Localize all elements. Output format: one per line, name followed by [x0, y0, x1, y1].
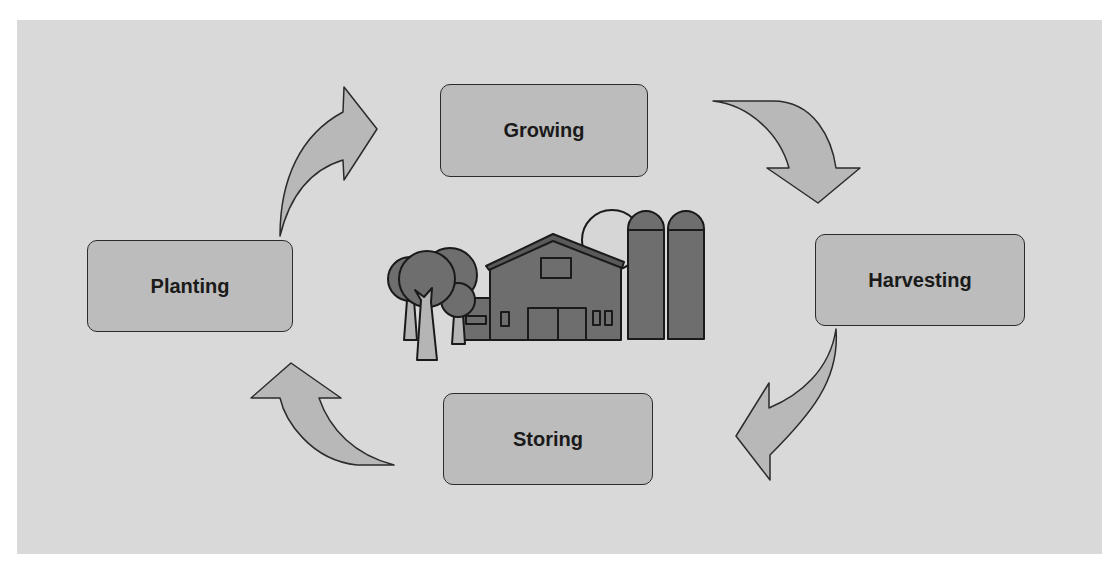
farm-icon — [388, 210, 704, 360]
stage-label: Growing — [503, 119, 584, 142]
silo-icon — [628, 211, 664, 339]
stage-label: Storing — [513, 428, 583, 451]
arrow-growing-to-harvesting-icon — [713, 101, 860, 203]
arrow-storing-to-planting-icon — [251, 363, 394, 465]
stage-harvesting: Harvesting — [815, 234, 1025, 326]
arrow-harvesting-to-storing-icon — [736, 329, 836, 480]
stage-storing: Storing — [443, 393, 653, 485]
stage-planting: Planting — [87, 240, 293, 332]
arrow-planting-to-growing-icon — [280, 87, 377, 236]
stage-label: Planting — [151, 275, 230, 298]
stage-growing: Growing — [440, 84, 648, 177]
stage-label: Harvesting — [868, 269, 971, 292]
silo-icon — [668, 211, 704, 339]
